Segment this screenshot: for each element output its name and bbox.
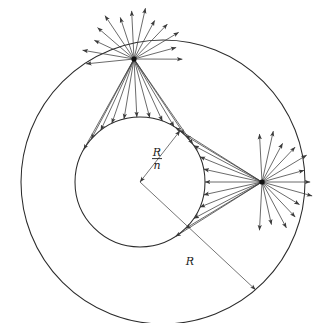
source-vertices <box>131 56 264 184</box>
figure-container: R n R <box>0 0 319 323</box>
inner-radius-numerator-label: R <box>152 146 161 159</box>
outward-ray <box>262 182 271 225</box>
outward-ray <box>259 182 262 230</box>
outward-ray <box>134 8 145 59</box>
outward-ray <box>262 155 307 182</box>
outward-ray <box>259 134 262 182</box>
top-source-point <box>131 56 136 61</box>
outward-ray <box>134 32 179 59</box>
outward-ray <box>262 182 286 228</box>
right-source-point <box>259 179 264 184</box>
outward-ray <box>86 59 134 64</box>
outward-ray <box>262 147 295 182</box>
outward-ray <box>262 170 304 182</box>
inward-ray <box>112 59 134 123</box>
inward-ray <box>200 182 262 207</box>
labels-group: R n R <box>152 146 194 268</box>
outward-ray <box>262 131 273 182</box>
top-source-inward-rays <box>84 59 193 150</box>
inner-radius-denominator-label: n <box>153 159 160 172</box>
inward-ray <box>200 157 262 182</box>
inward-ray <box>101 59 134 130</box>
inward-ray <box>194 182 262 219</box>
inward-ray <box>204 169 262 182</box>
right-source-outward-rays <box>259 131 312 230</box>
outer-radius-measure <box>140 182 256 290</box>
right-source-inward-rays <box>175 128 262 237</box>
inward-ray <box>194 145 262 182</box>
inward-ray <box>204 182 262 195</box>
inward-ray <box>134 59 193 144</box>
inward-ray <box>175 182 262 236</box>
inward-ray <box>186 136 262 182</box>
radiation-diagram: R n R <box>0 0 319 323</box>
outer-radius-label: R <box>185 255 194 268</box>
outward-ray <box>262 182 295 217</box>
outward-ray <box>134 47 176 59</box>
